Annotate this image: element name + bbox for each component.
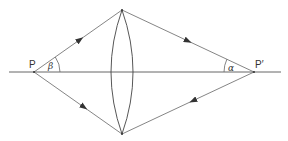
ray-upper-right <box>122 10 254 72</box>
lens-top-point <box>121 9 123 11</box>
lens-bottom-point <box>121 133 123 135</box>
point-p-prime <box>253 71 255 73</box>
label-beta: β <box>48 62 53 71</box>
angle-arc-beta <box>55 57 60 72</box>
point-p <box>33 71 35 73</box>
label-p: P <box>29 60 36 70</box>
ray-lower-right <box>122 72 254 134</box>
diagram-canvas <box>0 0 288 141</box>
angle-arc-alpha <box>224 59 227 72</box>
lens-ray-diagram: P β α P′ <box>0 0 288 141</box>
label-p-prime: P′ <box>255 60 264 70</box>
label-alpha: α <box>228 64 234 73</box>
